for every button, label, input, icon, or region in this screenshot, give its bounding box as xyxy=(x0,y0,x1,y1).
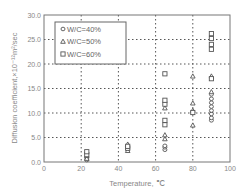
y-axis-ticks: 0.05.010.015.020.025.030.0 xyxy=(27,12,41,166)
y-tick-label: 30.0 xyxy=(27,12,41,19)
x-axis-ticks: 020406080100 xyxy=(42,165,236,172)
x-tick-label: 60 xyxy=(152,165,160,172)
x-tick-label: 20 xyxy=(77,165,85,172)
y-tick-label: 25.0 xyxy=(27,36,41,43)
circle-marker xyxy=(209,97,213,101)
circle-marker xyxy=(209,101,213,105)
legend-label: W/C=40% xyxy=(67,25,101,34)
legend: W/C=40%W/C=50%W/C=60% xyxy=(55,22,126,64)
square-marker xyxy=(209,42,213,46)
square-marker xyxy=(163,123,167,127)
y-tick-label: 10.0 xyxy=(27,110,41,117)
circle-marker xyxy=(209,116,213,120)
square-marker xyxy=(85,150,89,154)
y-tick-label: 0.0 xyxy=(31,159,41,166)
square-marker xyxy=(126,144,130,148)
x-tick-label: 100 xyxy=(224,165,236,172)
y-tick-label: 20.0 xyxy=(27,61,41,68)
triangle-marker xyxy=(191,123,196,127)
scatter-chart: 0.05.010.015.020.025.030.0 020406080100 … xyxy=(0,0,247,191)
legend-label: W/C=60% xyxy=(67,50,101,59)
square-marker xyxy=(209,36,213,40)
circle-marker xyxy=(209,109,213,113)
triangle-marker xyxy=(191,101,196,105)
circle-marker xyxy=(209,105,213,109)
square-marker xyxy=(209,32,213,36)
square-marker xyxy=(163,118,167,122)
triangle-marker xyxy=(191,74,196,78)
y-tick-label: 15.0 xyxy=(27,85,41,92)
y-axis-label: Diffusion coefficient,×10⁻¹²m²/sec xyxy=(10,32,19,143)
square-marker xyxy=(163,72,167,76)
square-marker xyxy=(209,77,213,81)
x-tick-label: 40 xyxy=(115,165,123,172)
x-tick-label: 0 xyxy=(42,165,46,172)
triangle-marker xyxy=(163,133,168,137)
legend-circle-icon xyxy=(61,27,65,31)
legend-label: W/C=50% xyxy=(67,37,101,46)
square-marker xyxy=(163,98,167,102)
legend-square-icon xyxy=(61,52,65,56)
triangle-marker xyxy=(209,90,214,94)
y-tick-label: 5.0 xyxy=(31,134,41,141)
x-axis-label: Temperature, ℃ xyxy=(109,179,164,188)
square-marker xyxy=(209,47,213,51)
circle-marker xyxy=(163,144,167,148)
x-tick-label: 80 xyxy=(189,165,197,172)
square-marker xyxy=(191,110,195,114)
